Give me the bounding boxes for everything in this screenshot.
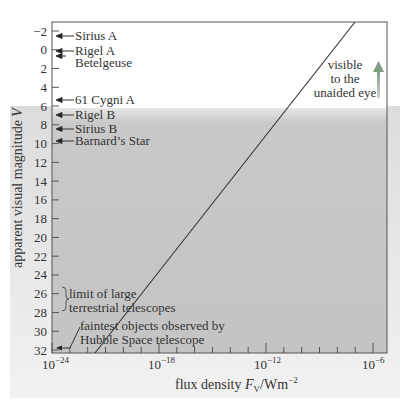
svg-text:10: 10 — [34, 136, 47, 151]
label-hubble-1: faintest objects observed by — [80, 318, 225, 333]
label-betelgeuse: Betelgeuse — [75, 55, 132, 70]
label-61-cygni-a: 61 Cygni A — [75, 92, 136, 107]
svg-text:4: 4 — [41, 80, 48, 95]
label-sirius-a: Sirius A — [75, 28, 118, 43]
svg-text:32: 32 — [34, 343, 47, 358]
svg-text:12: 12 — [34, 155, 47, 170]
label-barnards-star: Barnard’s Star — [75, 133, 150, 148]
magnitude-flux-chart: −202468101214161820222426283032 10−24 10… — [0, 0, 410, 403]
svg-text:24: 24 — [34, 267, 48, 282]
label-visible-1: visible — [328, 57, 363, 72]
svg-text:2: 2 — [41, 61, 48, 76]
svg-text:26: 26 — [34, 286, 48, 301]
svg-text:0: 0 — [41, 42, 48, 57]
svg-text:6: 6 — [41, 99, 48, 114]
svg-text:22: 22 — [34, 249, 47, 264]
svg-text:14: 14 — [34, 174, 48, 189]
label-hubble-2: Hubble Space telescope — [80, 332, 204, 347]
y-axis-label: apparent visual magnitude V — [10, 107, 25, 268]
label-visible-3: unaided eye — [314, 85, 377, 100]
svg-text:28: 28 — [34, 305, 47, 320]
label-limit-1: limit of large — [69, 286, 137, 301]
svg-text:30: 30 — [34, 324, 47, 339]
svg-text:20: 20 — [34, 230, 47, 245]
label-visible-2: to the — [330, 71, 359, 86]
svg-text:16: 16 — [34, 192, 48, 207]
svg-text:8: 8 — [41, 117, 48, 132]
svg-text:−2: −2 — [33, 24, 47, 39]
up-arrow-shaft — [377, 70, 380, 98]
label-rigel-b: Rigel B — [75, 107, 115, 122]
svg-text:18: 18 — [34, 211, 47, 226]
x-axis-label: flux density FV/Wm−2 — [175, 375, 298, 394]
label-limit-2: terrestrial telescopes — [69, 300, 175, 315]
